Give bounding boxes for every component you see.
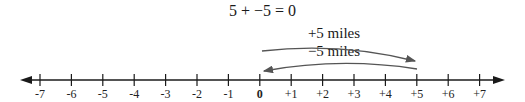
- tick-label: +2: [316, 87, 329, 101]
- tick-label: -2: [192, 87, 202, 101]
- tick-label: +4: [379, 87, 392, 101]
- ticks: -7-6-5-4-3-2-10+1+2+3+4+5+6+7: [35, 74, 486, 101]
- tick-label: +6: [442, 87, 455, 101]
- tick-label: -6: [66, 87, 76, 101]
- tick-label: +5: [410, 87, 423, 101]
- tick-label: -1: [223, 87, 233, 101]
- backward-arrow: [264, 63, 417, 71]
- forward-arrow: [262, 48, 415, 61]
- tick-label: -7: [35, 87, 45, 101]
- tick-label: -3: [161, 87, 171, 101]
- number-line-diagram: -7-6-5-4-3-2-10+1+2+3+4+5+6+7: [0, 0, 525, 102]
- tick-label: -5: [98, 87, 108, 101]
- tick-label: +7: [473, 87, 486, 101]
- left-arrowhead-icon: [20, 76, 32, 84]
- tick-label: +3: [348, 87, 361, 101]
- tick-label: +1: [285, 87, 298, 101]
- tick-label: -4: [129, 87, 139, 101]
- right-arrowhead-icon: [493, 76, 505, 84]
- tick-label: 0: [257, 87, 263, 101]
